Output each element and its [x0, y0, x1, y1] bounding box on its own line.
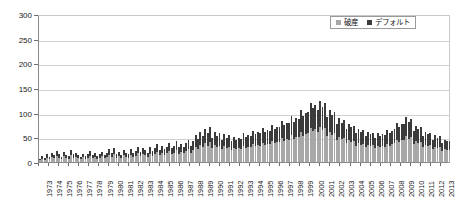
x-tick-label: 2005	[368, 181, 376, 197]
y-axis: 050100150200250300	[0, 0, 38, 199]
bar-column	[449, 141, 451, 162]
x-tick-mark	[88, 163, 89, 166]
x-tick-mark	[138, 163, 139, 166]
x-tick-label: 1989	[207, 181, 215, 197]
x-tick-mark	[108, 163, 109, 166]
y-tick: 200	[0, 60, 38, 69]
x-tick-mark	[279, 163, 280, 166]
x-tick-mark	[360, 163, 361, 166]
legend-label: 破産	[344, 18, 358, 27]
x-tick-label: 2013	[448, 181, 456, 197]
x-tick-mark	[98, 163, 99, 166]
x-tick-label: 1990	[217, 181, 225, 197]
x-tick-label: 1973	[46, 181, 54, 197]
y-tick: 50	[0, 134, 38, 143]
y-tick-label: 250	[19, 36, 32, 45]
x-tick-mark	[249, 163, 250, 166]
x-tick-mark	[309, 163, 310, 166]
x-tick-label: 1993	[247, 181, 255, 197]
legend-swatch-icon	[367, 20, 372, 25]
legend-item: デフォルト	[367, 18, 410, 27]
x-tick-mark	[289, 163, 290, 166]
x-tick-label: 1985	[167, 181, 175, 197]
x-tick-mark	[189, 163, 190, 166]
x-tick-label: 1980	[117, 181, 125, 197]
x-tick-label: 1994	[257, 181, 265, 197]
x-tick-mark	[128, 163, 129, 166]
bar-segment-default	[449, 141, 451, 150]
x-tick-mark	[199, 163, 200, 166]
x-tick-mark	[430, 163, 431, 166]
y-tick-label: 200	[19, 60, 32, 69]
x-tick-label: 2011	[428, 181, 436, 197]
x-tick-mark	[420, 163, 421, 166]
x-axis: 1973197419751976197719781979198019811982…	[38, 163, 450, 199]
x-tick-mark	[68, 163, 69, 166]
chart-legend: 破産デフォルト	[330, 16, 416, 29]
x-tick-mark	[339, 163, 340, 166]
y-tick: 0	[0, 159, 38, 168]
x-tick-label: 1983	[147, 181, 155, 197]
x-tick-label: 2009	[408, 181, 416, 197]
x-tick-mark	[299, 163, 300, 166]
y-tick-label: 0	[28, 159, 32, 168]
x-tick-label: 2006	[378, 181, 386, 197]
plot-area	[38, 15, 450, 163]
x-tick-label: 1992	[237, 181, 245, 197]
x-tick-mark	[229, 163, 230, 166]
x-tick-label: 1976	[76, 181, 84, 197]
x-tick-mark	[78, 163, 79, 166]
x-tick-label: 1996	[277, 181, 285, 197]
x-tick-label: 1975	[66, 181, 74, 197]
x-tick-mark	[329, 163, 330, 166]
x-tick-mark	[169, 163, 170, 166]
x-tick-mark	[219, 163, 220, 166]
legend-swatch-icon	[336, 20, 341, 25]
bar-segment-hasan	[449, 150, 451, 162]
x-tick-mark	[118, 163, 119, 166]
legend-item: 破産	[336, 18, 358, 27]
x-tick-label: 1978	[96, 181, 104, 197]
y-tick-label: 300	[19, 11, 32, 20]
x-tick-mark	[48, 163, 49, 166]
x-tick-label: 1977	[86, 181, 94, 197]
x-tick-label: 1998	[297, 181, 305, 197]
x-tick-mark	[38, 163, 39, 166]
legend-label: デフォルト	[375, 18, 410, 27]
x-tick-mark	[159, 163, 160, 166]
x-tick-label: 2007	[388, 181, 396, 197]
x-tick-label: 2002	[338, 181, 346, 197]
x-tick-mark	[380, 163, 381, 166]
x-tick-mark	[350, 163, 351, 166]
x-tick-label: 1986	[177, 181, 185, 197]
x-tick-label: 1987	[187, 181, 195, 197]
x-tick-mark	[440, 163, 441, 166]
x-tick-label: 2001	[328, 181, 336, 197]
x-tick-label: 2000	[318, 181, 326, 197]
y-tick: 250	[0, 36, 38, 45]
x-tick-label: 1995	[267, 181, 275, 197]
x-tick-mark	[269, 163, 270, 166]
x-tick-mark	[58, 163, 59, 166]
y-tick: 300	[0, 11, 38, 20]
x-tick-label: 1979	[107, 181, 115, 197]
bar-segment-default	[113, 148, 115, 154]
x-tick-mark	[400, 163, 401, 166]
x-tick-mark	[319, 163, 320, 166]
x-tick-label: 1997	[287, 181, 295, 197]
x-tick-mark	[239, 163, 240, 166]
x-tick-label: 2004	[358, 181, 366, 197]
x-tick-mark	[259, 163, 260, 166]
x-tick-label: 1984	[157, 181, 165, 197]
x-tick-mark	[209, 163, 210, 166]
y-tick: 100	[0, 110, 38, 119]
x-tick-label: 2003	[348, 181, 356, 197]
x-tick-mark	[370, 163, 371, 166]
x-tick-mark	[149, 163, 150, 166]
x-tick-label: 1999	[307, 181, 315, 197]
y-tick: 150	[0, 85, 38, 94]
x-tick-mark	[390, 163, 391, 166]
stacked-bar-chart: 050100150200250300 197319741975197619771…	[0, 0, 458, 199]
x-tick-label: 2012	[438, 181, 446, 197]
y-tick-label: 150	[19, 85, 32, 94]
